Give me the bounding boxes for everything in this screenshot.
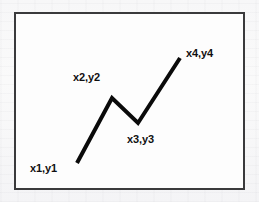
figure-container: x1,y1 x2,y2 x3,y3 x4,y4 <box>0 0 259 202</box>
point-label-x1y1: x1,y1 <box>30 162 57 174</box>
point-label-x4y4: x4,y4 <box>186 47 214 59</box>
point-label-x2y2: x2,y2 <box>73 71 100 83</box>
point-label-x3y3: x3,y3 <box>127 133 154 145</box>
line-chart-figure: x1,y1 x2,y2 x3,y3 x4,y4 <box>0 0 259 202</box>
